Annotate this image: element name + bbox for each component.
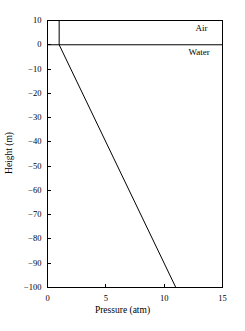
water-region-label: Water — [171, 48, 227, 57]
y-axis-tick-label: −50 — [0, 162, 42, 171]
x-axis-tick-label: 10 — [144, 294, 184, 303]
x-axis-tick-label: 15 — [203, 294, 243, 303]
plot-frame — [48, 21, 223, 288]
y-axis-tick-label: 0 — [0, 40, 42, 49]
x-axis-title: Pressure (atm) — [0, 305, 245, 315]
x-axis-tick-label: 5 — [86, 294, 126, 303]
y-axis-tick-label: −40 — [0, 137, 42, 146]
y-axis-title: Height (m) — [4, 113, 14, 193]
y-axis-tick-label: 10 — [0, 16, 42, 25]
x-axis-tick-label: 0 — [28, 294, 68, 303]
y-axis-tick-label: −60 — [0, 186, 42, 195]
y-axis-tick-label: −90 — [0, 259, 42, 268]
y-axis-tick-label: −80 — [0, 234, 42, 243]
y-axis-tick-label: −30 — [0, 113, 42, 122]
air-region-label: Air — [179, 24, 225, 33]
y-axis-tick-label: −70 — [0, 210, 42, 219]
y-axis-tick-label: −10 — [0, 65, 42, 74]
y-axis-tick-label: −100 — [0, 283, 42, 292]
y-axis-tick-label: −20 — [0, 89, 42, 98]
pressure-height-chart: Height (m) Pressure (atm) Air Water 100−… — [0, 0, 245, 331]
